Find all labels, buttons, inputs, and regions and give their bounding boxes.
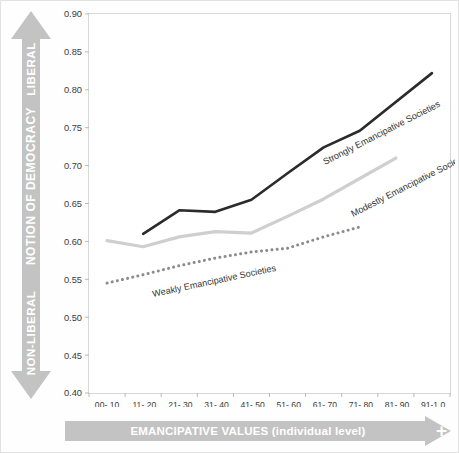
vertical-axis-arrow: LIBERAL NOTION OF DEMOCRACY NON-LIBERAL (9, 9, 53, 401)
plot-border (89, 14, 451, 394)
y-axis-ticks: 0.900.850.800.750.700.650.600.550.500.45… (64, 9, 89, 398)
y-axis-tick-label: 0.50 (64, 313, 82, 323)
y-axis-tick-label: 0.80 (64, 85, 82, 95)
vertical-arrow-shape (11, 11, 51, 399)
x-axis-ticks: 00-.10.11-.20.21-.30.31-.40.41-.50.51-.6… (89, 393, 450, 407)
x-axis-tick-label: .31-.40 (202, 400, 229, 407)
y-axis-tick-label: 0.45 (64, 351, 82, 361)
x-axis-tick-label: .11-.20 (130, 400, 156, 407)
x-axis-tick-label: .51-.60 (274, 400, 301, 407)
x-axis-tick-label: 00-.10 (95, 400, 120, 407)
figure-root: LIBERAL NOTION OF DEMOCRACY NON-LIBERAL … (0, 0, 459, 453)
y-axis-tick-label: 0.75 (64, 123, 82, 133)
y-axis-tick-label: 0.70 (64, 161, 82, 171)
y-axis-tick-label: 0.90 (64, 9, 82, 19)
y-axis-tick-label: 0.65 (64, 199, 82, 209)
x-axis-tick-label: .41-.50 (238, 400, 265, 407)
x-axis-tick-label: .81-.90 (382, 400, 409, 407)
horizontal-arrow-shape (65, 416, 451, 446)
y-axis-tick-label: 0.60 (64, 237, 82, 247)
x-axis-tick-label: .61-.70 (310, 400, 337, 407)
y-axis-tick-label: 0.85 (64, 47, 82, 57)
x-axis-tick-label: .71-.80 (346, 400, 373, 407)
y-axis-tick-label: 0.55 (64, 275, 82, 285)
chart-canvas: 0.900.850.800.750.700.650.600.550.500.45… (57, 5, 455, 407)
horizontal-axis-arrow: EMANCIPATIVE VALUES (individual level) + (63, 415, 453, 447)
x-axis-tick-label: .21-.30 (166, 400, 193, 407)
y-axis-tick-label: 0.40 (64, 388, 82, 398)
x-axis-tick-label: .91-1.0 (419, 400, 446, 407)
